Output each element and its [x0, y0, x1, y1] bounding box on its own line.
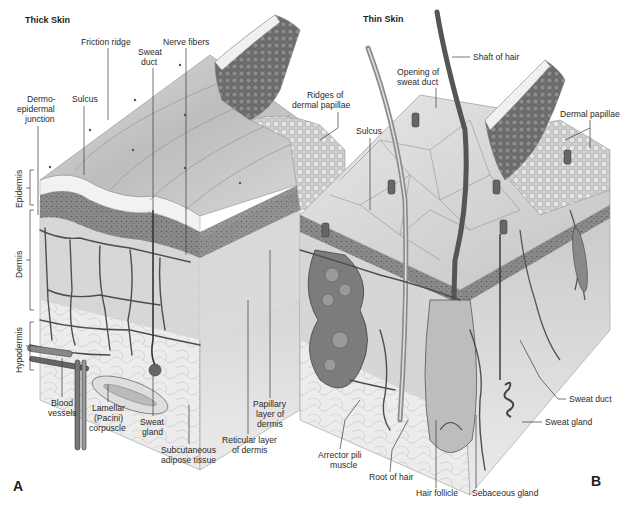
label-arrector-pili-line1: Arrector pili	[318, 450, 362, 460]
label-dermo-epidermal-line2: epidermal	[17, 104, 55, 114]
label-subcutaneous-line2: adipose tissue	[161, 455, 216, 465]
panel-letter-b: B	[591, 473, 601, 489]
label-dermo-epidermal-line3: junction	[24, 114, 55, 124]
label-blood-vessels-line1: Blood	[51, 398, 73, 408]
hair-follicle-bulb	[425, 300, 477, 453]
label-root-of-hair: Root of hair	[369, 472, 414, 482]
label-papillary-line3: dermis	[257, 419, 283, 429]
label-dermo-epidermal-line1: Dermo-	[27, 94, 56, 104]
label-epidermis: Epidermis	[14, 170, 24, 208]
label-opening-sweat-duct-line2: sweat duct	[397, 77, 439, 87]
label-dermis: Dermis	[14, 251, 24, 278]
label-hair-follicle: Hair follicle	[416, 488, 458, 498]
label-sulcus-b: Sulcus	[356, 126, 382, 136]
label-subcutaneous-line1: Subcutaneous	[161, 445, 216, 455]
label-sweat-gland-a-line2: gland	[142, 427, 163, 437]
label-arrector-pili-line2: muscle	[330, 460, 357, 470]
label-sweat-gland-a-line1: Sweat	[140, 417, 164, 427]
label-papillary-line2: layer of	[256, 409, 285, 419]
label-lamellar-line3: corpuscle	[89, 423, 126, 433]
label-friction-ridge: Friction ridge	[81, 37, 131, 47]
label-lamellar-line2: (Pacini)	[94, 413, 123, 423]
label-ridges-dermal-papillae-line2: dermal papillae	[292, 100, 351, 110]
label-ridges-dermal-papillae-line1: Ridges of	[307, 90, 344, 100]
layer-brackets: Epidermis Dermis Hypodermis	[14, 170, 34, 373]
label-sweat-duct-a-line1: Sweat	[138, 47, 162, 57]
label-sweat-gland-b: Sweat gland	[545, 417, 593, 427]
label-dermal-papillae: Dermal papillae	[560, 109, 620, 119]
label-hypodermis: Hypodermis	[14, 327, 24, 373]
label-reticular-line1: Reticular layer	[222, 435, 277, 445]
label-opening-sweat-duct-line1: Opening of	[397, 67, 440, 77]
label-papillary-line1: Papillary	[253, 399, 287, 409]
label-blood-vessels-line2: vessels	[48, 408, 77, 418]
skin-structure-figure: Thick Skin Friction ridge Nerve fibers S…	[0, 0, 633, 509]
thick-sweat-gland	[149, 364, 161, 376]
label-sweat-duct-b: Sweat duct	[569, 394, 612, 404]
label-nerve-fibers: Nerve fibers	[163, 37, 209, 47]
panel-letter-a: A	[13, 478, 23, 494]
label-sulcus-a: Sulcus	[72, 94, 98, 104]
panel-b-title: Thin Skin	[363, 14, 404, 24]
label-sebaceous-gland: Sebaceous gland	[472, 488, 539, 498]
label-reticular-line2: of dermis	[232, 445, 267, 455]
label-sweat-duct-a-line2: duct	[141, 57, 158, 67]
label-shaft-of-hair: Shaft of hair	[473, 52, 519, 62]
label-lamellar-line1: Lamellar	[92, 403, 125, 413]
panel-a-title: Thick Skin	[25, 15, 70, 25]
